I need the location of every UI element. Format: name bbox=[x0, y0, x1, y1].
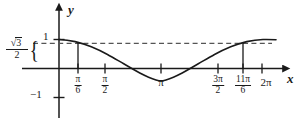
x-tick-label-3pi-over-2: 3π 2 bbox=[212, 75, 224, 96]
sqrt3-over-2-brace: { bbox=[30, 37, 39, 63]
x-tick-label-pi: π bbox=[158, 76, 164, 88]
x-tick-label-pi-over-6: π 6 bbox=[75, 75, 82, 96]
sqrt3-over-2-label: √3 2 bbox=[6, 37, 28, 60]
x-axis-label: x bbox=[287, 72, 294, 85]
x-tick-label-11pi-over-6: 11π 6 bbox=[235, 75, 251, 96]
y-tick-label-minus-one: −1 bbox=[30, 89, 42, 100]
y-axis-label: y bbox=[68, 3, 74, 16]
three-pi-over-2-denominator: 2 bbox=[212, 86, 224, 96]
x-tick-label-2pi: 2π bbox=[260, 76, 271, 88]
y-tick-label-one: 1 bbox=[43, 31, 49, 42]
plot-canvas bbox=[0, 0, 306, 125]
pi-over-6-denominator: 6 bbox=[75, 86, 82, 96]
radicand-value: 3 bbox=[15, 37, 22, 49]
eleven-pi-over-6-denominator: 6 bbox=[235, 86, 251, 96]
x-tick-label-pi-over-2: π 2 bbox=[102, 75, 109, 96]
cosine-graph-figure: y x 1 −1 √3 2 { π 6 π 2 π 3π 2 11π 6 bbox=[0, 0, 306, 125]
pi-over-2-denominator: 2 bbox=[102, 86, 109, 96]
sqrt3-over-2-denominator: 2 bbox=[6, 50, 28, 61]
